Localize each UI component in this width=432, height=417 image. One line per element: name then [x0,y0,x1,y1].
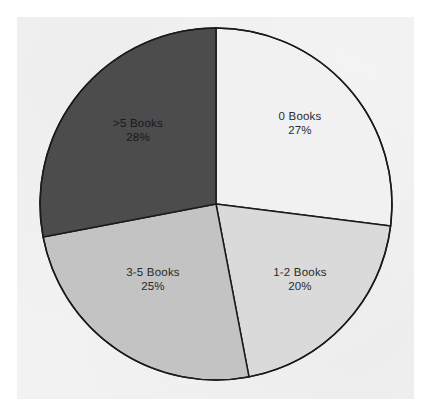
slice-label-gt5-books: >5 Books 28% [113,117,163,145]
slice-label-3-5-books: 3-5 Books 25% [126,266,180,294]
slice-label-1-2-books: 1-2 Books 20% [273,266,327,294]
slice-label-name: >5 Books [113,117,163,131]
pie-chart: 0 Books 27% 1-2 Books 20% 3-5 Books 25% … [0,0,432,417]
slice-label-0-books: 0 Books 27% [279,110,322,138]
scanned-page: 0 Books 27% 1-2 Books 20% 3-5 Books 25% … [0,0,432,417]
pie-chart-svg [0,0,432,417]
slice-label-percent: 25% [126,280,180,294]
slice-label-percent: 20% [273,280,327,294]
pie-slices-group [40,28,392,380]
slice-label-name: 3-5 Books [126,266,180,280]
slice-label-name: 1-2 Books [273,266,327,280]
slice-label-percent: 28% [113,131,163,145]
slice-label-percent: 27% [279,124,322,138]
slice-label-name: 0 Books [279,110,322,124]
